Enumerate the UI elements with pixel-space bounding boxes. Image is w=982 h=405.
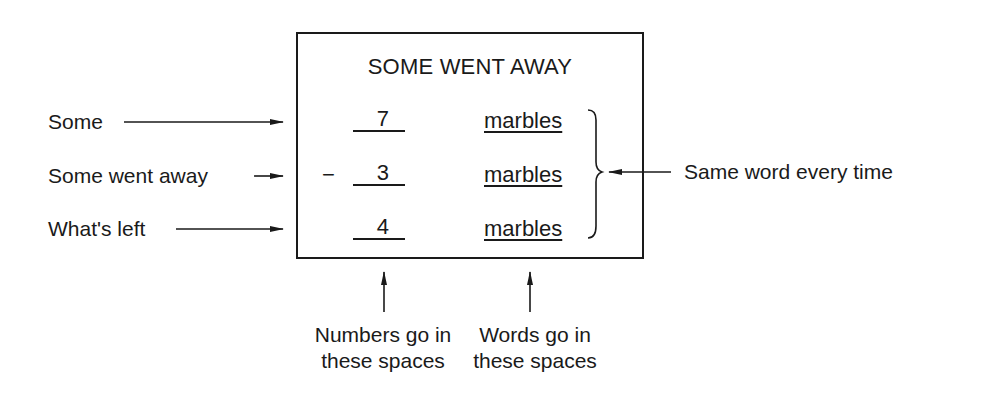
label-some-went-away: Some went away [48,164,208,188]
number-slot-went-away: 3 [353,162,405,186]
box-title: SOME WENT AWAY [296,54,644,80]
caption-words-line2: these spaces [465,348,605,374]
minus-sign: − [322,164,335,186]
word-slot-some: marbles [484,110,562,132]
label-some: Some [48,110,103,134]
word-slot-whats-left: marbles [484,218,562,240]
label-same-word: Same word every time [684,160,893,184]
word-slot-went-away: marbles [484,164,562,186]
caption-words-line1: Words go in [465,322,605,348]
number-slot-whats-left: 4 [353,216,405,240]
number-slot-some: 7 [353,108,405,132]
caption-words: Words go in these spaces [465,322,605,374]
label-whats-left: What's left [48,217,145,241]
